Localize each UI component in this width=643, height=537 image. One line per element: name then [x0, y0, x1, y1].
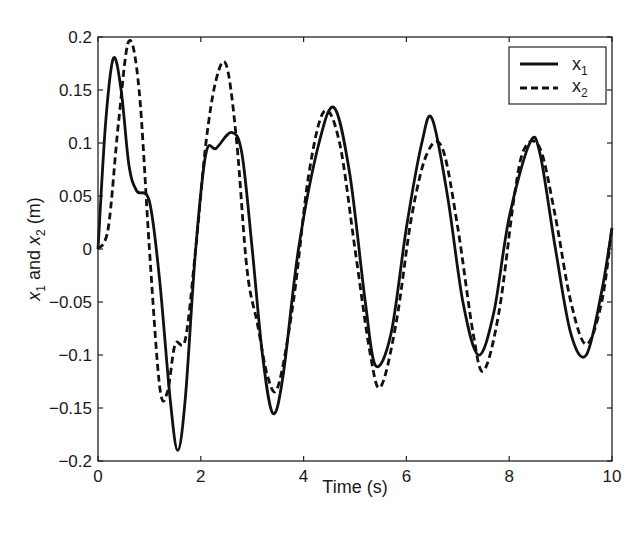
x-tick-label: 6: [402, 467, 411, 486]
y-tick-label: −0.05: [49, 293, 92, 312]
line-chart: 0.20.150.10.050−0.05−0.1−0.15−0.2 024681…: [0, 0, 643, 537]
x-tick-label: 10: [603, 467, 622, 486]
y-axis-label: x1 and x2 (m): [24, 197, 48, 301]
y-tick-label: −0.1: [58, 346, 92, 365]
x-tick-label: 8: [504, 467, 513, 486]
y-tick-label: −0.15: [49, 399, 92, 418]
x-tick-label: 4: [299, 467, 308, 486]
x-axis-label: Time (s): [322, 477, 387, 497]
y-tick-label: 0: [83, 240, 92, 259]
x-tick-label: 0: [93, 467, 102, 486]
y-tick-labels: 0.20.150.10.050−0.05−0.1−0.15−0.2: [49, 28, 92, 471]
y-tick-label: 0.05: [59, 187, 92, 206]
legend-box: [509, 47, 606, 104]
y-tick-label: 0.1: [68, 134, 92, 153]
y-tick-label: −0.2: [58, 452, 92, 471]
y-tick-label: 0.15: [59, 81, 92, 100]
y-tick-label: 0.2: [68, 28, 92, 47]
legend: x1 x2: [509, 47, 606, 104]
x-tick-label: 2: [196, 467, 205, 486]
